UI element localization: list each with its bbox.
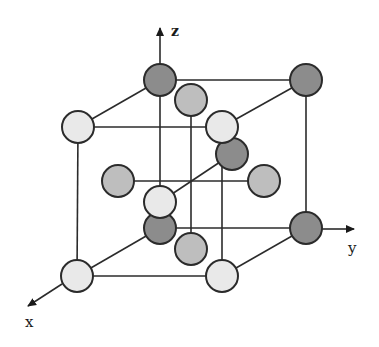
atom-back-top-left <box>144 64 176 96</box>
atom-left-face <box>102 165 134 197</box>
unit-cell-diagram: z y x <box>0 0 379 347</box>
atom-front-face <box>144 186 176 218</box>
atom-back-top-right <box>290 64 322 96</box>
atom-front-top-right <box>206 111 238 143</box>
atom-bottom-face <box>175 233 207 265</box>
atom-front-bottom-right <box>206 260 238 292</box>
atom-right-face <box>248 165 280 197</box>
atom-back-bottom-right <box>290 212 322 244</box>
x-axis-label: x <box>25 313 34 331</box>
atom-front-bottom-left <box>61 260 93 292</box>
z-axis-label: z <box>171 23 179 39</box>
x-axis <box>28 284 62 306</box>
atom-front-top-left <box>62 111 94 143</box>
y-axis-label: y <box>347 239 357 257</box>
unit-cell-figure: z y x <box>0 0 379 347</box>
atom-top-face <box>175 84 207 116</box>
